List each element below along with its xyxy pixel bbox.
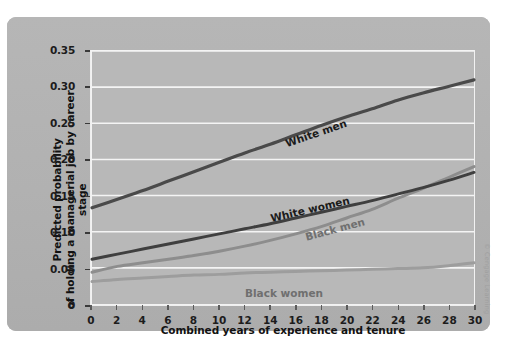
chart-page: Predicted probability of holding a manag… (0, 0, 513, 344)
x-tick-mark (116, 305, 118, 310)
y-tick-label: 0.35 (50, 44, 75, 56)
x-tick-mark (321, 305, 323, 310)
x-axis-label: Combined years of experience and tenure (91, 324, 475, 336)
y-tick-label: 0.05 (50, 263, 75, 275)
figure-card: Predicted probability of holding a manag… (7, 17, 490, 331)
x-tick-mark (90, 305, 92, 310)
x-tick-mark (423, 305, 425, 310)
x-tick-mark (372, 305, 374, 310)
x-tick-mark (398, 305, 400, 310)
x-tick-mark (142, 305, 144, 310)
plot-area: White menWhite womenBlack menBlack women (91, 50, 475, 305)
y-tick-label: 0.25 (50, 117, 75, 129)
series-label-black-women: Black women (245, 287, 323, 299)
y-tick-label: 0.30 (50, 80, 75, 92)
y-tick-label: 0.10 (50, 226, 75, 238)
series-lines (92, 51, 474, 304)
x-tick-mark (167, 305, 169, 310)
x-tick-mark (295, 305, 297, 310)
x-tick-mark (474, 305, 476, 310)
x-tick-mark (269, 305, 271, 310)
y-axis-ticks: 00.050.100.150.200.250.300.35 (41, 50, 87, 305)
x-tick-mark (449, 305, 451, 310)
x-tick-mark (193, 305, 195, 310)
series-line-black-women (92, 263, 474, 282)
y-tick-label: 0.15 (50, 190, 75, 202)
copyright-credit: © Cengage Learning (483, 243, 491, 333)
y-tick-label: 0.20 (50, 153, 75, 165)
x-tick-mark (218, 305, 220, 310)
x-tick-mark (346, 305, 348, 310)
x-tick-mark (244, 305, 246, 310)
y-tick-label: 0 (68, 299, 75, 311)
